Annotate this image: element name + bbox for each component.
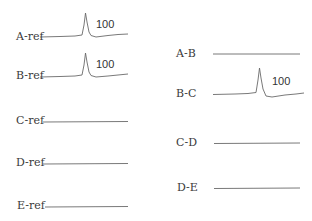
peak-label-b-c: 100 bbox=[272, 75, 290, 87]
trace-c-ref bbox=[43, 122, 128, 123]
trace-lines bbox=[0, 0, 312, 221]
label-d-ref: D-ref bbox=[16, 157, 45, 169]
trace-b-ref bbox=[40, 53, 128, 77]
label-e-ref: E-ref bbox=[17, 200, 45, 212]
trace-a-ref bbox=[40, 13, 128, 37]
trace-d-e bbox=[214, 188, 300, 189]
label-c-ref: C-ref bbox=[16, 115, 44, 127]
peak-label-a-ref: 100 bbox=[96, 18, 114, 30]
label-a-ref: A-ref bbox=[16, 31, 44, 43]
label-c-d: C-D bbox=[176, 137, 197, 149]
label-a-b: A-B bbox=[176, 48, 196, 60]
label-b-ref: B-ref bbox=[16, 70, 44, 82]
peak-label-b-ref: 100 bbox=[96, 58, 114, 70]
trace-d-ref bbox=[43, 164, 128, 165]
trace-e-ref bbox=[45, 207, 128, 208]
trace-c-d bbox=[214, 143, 300, 144]
label-d-e: D-E bbox=[177, 182, 198, 194]
label-b-c: B-C bbox=[176, 88, 196, 100]
